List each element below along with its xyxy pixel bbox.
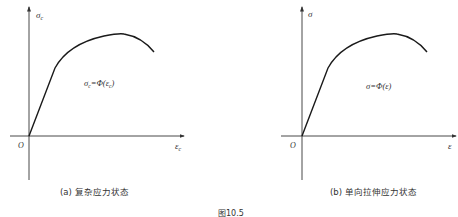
panel-b: σ O ε σ=Φ(ε) (b) 单向拉伸应力状态 [281,7,456,197]
formula-b: σ=Φ(ε) [366,81,392,91]
stress-strain-figure: σc O εc σc=Φ(εc) (a) 复杂应力状态 σ O ε σ=Φ(ε)… [0,0,458,217]
y-axis-label-b: σ [308,9,313,19]
formula-a: σc=Φ(εc) [84,78,115,89]
panel-a: σc O εc σc=Φ(εc) (a) 复杂应力状态 [10,7,184,197]
stress-strain-curve-b [302,34,427,136]
caption-a: (a) 复杂应力状态 [60,187,129,197]
origin-label-b: O [290,141,296,150]
x-axis-label-a: εc [175,141,182,152]
figure-number: 图10.5 [218,209,244,217]
x-axis-label-b: ε [448,141,452,151]
origin-label-a: O [18,141,24,150]
caption-b: (b) 单向拉伸应力状态 [330,187,417,197]
y-axis-label-a: σc [36,10,43,21]
